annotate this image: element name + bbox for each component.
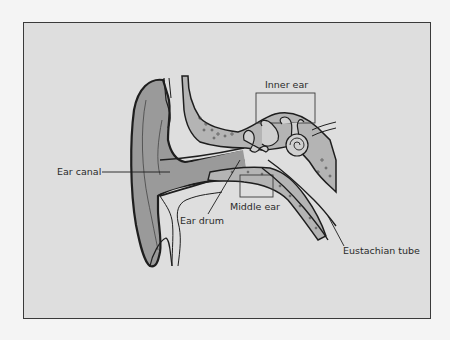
cochlea: [286, 134, 308, 156]
eustachian-leader: [328, 216, 344, 246]
label-eustachian-tube: Eustachian tube: [343, 246, 420, 256]
label-inner-ear: Inner ear: [265, 80, 308, 90]
label-ear-canal: Ear canal: [57, 167, 101, 177]
label-middle-ear: Middle ear: [230, 202, 280, 212]
label-ear-drum: Ear drum: [180, 216, 224, 226]
